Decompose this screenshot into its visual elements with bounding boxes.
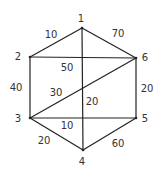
edge-weight-2-6: 50: [61, 62, 74, 73]
edge-weight-3-4: 20: [38, 135, 51, 146]
node-label-5: 5: [142, 113, 148, 124]
edge-weight-3-5: 10: [61, 120, 74, 131]
node-2: [29, 56, 32, 59]
node-3: [29, 117, 32, 120]
node-label-3: 3: [15, 113, 21, 124]
edge-1-6: [82, 28, 136, 58]
edge-weight-6-5: 20: [141, 83, 154, 94]
node-1: [81, 27, 84, 30]
edge-2-6: [30, 57, 136, 58]
edge-weight-1-6: 70: [112, 28, 125, 39]
node-4: [82, 149, 85, 152]
node-label-6: 6: [142, 52, 148, 63]
node-label-1: 1: [78, 13, 84, 24]
node-label-2: 2: [15, 51, 21, 62]
edges-group: [30, 28, 136, 150]
edge-4-5: [83, 118, 136, 150]
edge-weight-3-6: 30: [50, 87, 63, 98]
edge-weight-1-4: 20: [86, 96, 99, 107]
edge-1-4: [82, 28, 83, 150]
edge-weights-group: 10705040302020102060: [10, 28, 154, 149]
edge-weight-4-5: 60: [112, 138, 125, 149]
node-6: [135, 57, 138, 60]
graph-diagram: 10705040302020102060 123456: [0, 0, 161, 171]
node-5: [135, 117, 138, 120]
edge-weight-2-3: 40: [10, 82, 23, 93]
node-label-4: 4: [79, 156, 85, 167]
edge-weight-1-2: 10: [45, 29, 58, 40]
